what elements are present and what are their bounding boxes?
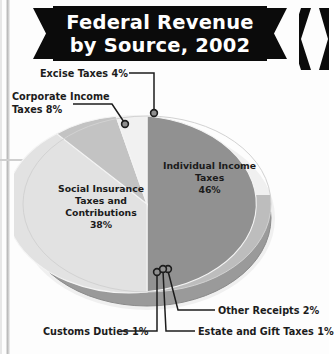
- callout-label-excise: Excise Taxes 4%: [40, 68, 128, 81]
- page-edge-partial-glyph: [299, 6, 329, 72]
- pie-label-social-line-3: Contributions: [58, 207, 144, 219]
- pie-label-individual-line-3: 46%: [163, 184, 256, 196]
- callout-corporate-line-1: Corporate Income: [12, 91, 110, 104]
- pie-label-social-line-4: 38%: [58, 219, 144, 231]
- pie-label-social-line-2: Taxes and: [58, 195, 144, 207]
- callout-label-corporate-income: Corporate Income Taxes 8%: [12, 91, 110, 116]
- pie-label-individual-line-2: Taxes: [163, 172, 256, 184]
- pie-label-social-insurance: Social Insurance Taxes and Contributions…: [58, 183, 144, 231]
- callout-label-customs-duties: Customs Duties 1%: [43, 326, 148, 339]
- page-rule-left: [6, 0, 10, 354]
- page-edge-hairline: [0, 0, 2, 354]
- callout-label-other-receipts: Other Receipts 2%: [218, 305, 319, 318]
- title-banner: [33, 6, 287, 61]
- pie-label-individual-line-1: Individual Income: [163, 160, 256, 172]
- pie-label-individual-income: Individual Income Taxes 46%: [163, 160, 256, 196]
- pie-label-social-line-1: Social Insurance: [58, 183, 144, 195]
- callout-label-estate-gift-taxes: Estate and Gift Taxes 1%: [198, 326, 334, 339]
- callout-corporate-line-2: Taxes 8%: [12, 104, 110, 117]
